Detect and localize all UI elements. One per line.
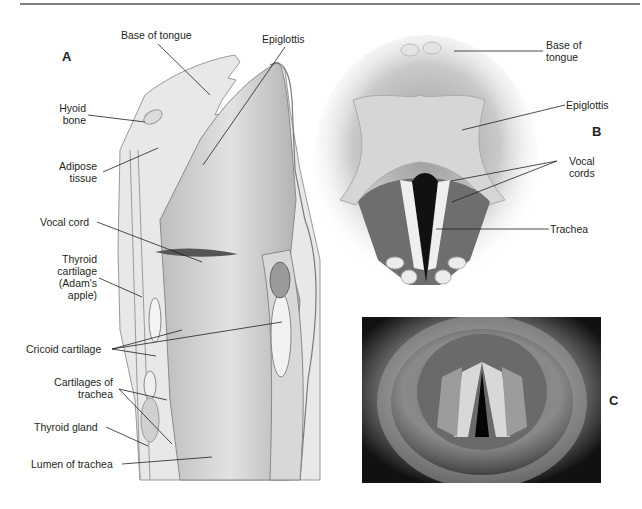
- panel-a-drawing: [118, 55, 320, 480]
- label-b-base-of-tongue-1: Base of: [546, 39, 582, 51]
- label-adipose-2: tissue: [45, 172, 97, 184]
- label-base-of-tongue: Base of tongue: [121, 29, 192, 41]
- label-epiglottis: Epiglottis: [262, 33, 305, 45]
- panel-label-c: C: [609, 393, 618, 408]
- label-thyroid-gland: Thyroid gland: [34, 421, 98, 433]
- panel-label-b: B: [592, 124, 601, 139]
- label-thyroid-cartilage-3: (Adam's: [40, 277, 97, 289]
- label-adipose-1: Adipose: [45, 160, 97, 172]
- label-b-base-of-tongue-2: tongue: [546, 51, 578, 63]
- label-b-epiglottis: Epiglottis: [566, 99, 609, 111]
- label-cartilages-trachea-2: trachea: [40, 388, 113, 400]
- laryngoscopy-photo: [362, 317, 601, 483]
- label-hyoid-bone-2: bone: [50, 114, 86, 126]
- label-thyroid-cartilage-2: cartilage: [40, 265, 97, 277]
- label-thyroid-cartilage-1: Thyroid: [40, 253, 97, 265]
- label-lumen-of-trachea: Lumen of trachea: [31, 458, 113, 470]
- label-cricoid-cartilage: Cricoid cartilage: [26, 343, 101, 355]
- label-b-vocal-cords-2: cords: [569, 167, 595, 179]
- label-vocal-cord: Vocal cord: [40, 216, 89, 228]
- panel-b-drawing: [314, 35, 538, 285]
- panel-label-a: A: [62, 49, 71, 64]
- label-b-vocal-cords-1: Vocal: [569, 155, 595, 167]
- label-b-trachea: Trachea: [550, 223, 588, 235]
- label-hyoid-bone-1: Hyoid: [50, 102, 86, 114]
- label-cartilages-trachea-1: Cartilages of: [40, 376, 113, 388]
- label-thyroid-cartilage-4: apple): [40, 289, 97, 301]
